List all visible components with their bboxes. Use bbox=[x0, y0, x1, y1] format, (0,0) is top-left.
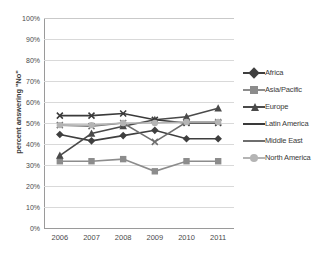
y-axis-tick-label: 0% bbox=[6, 225, 40, 232]
data-point bbox=[183, 158, 189, 164]
y-axis-tick-label: 80% bbox=[6, 57, 40, 64]
data-point bbox=[119, 132, 127, 140]
legend-item-asia-pacific[interactable]: Asia/Pacific bbox=[243, 81, 323, 98]
y-axis-tick-label: 40% bbox=[6, 141, 40, 148]
data-point bbox=[88, 158, 94, 164]
y-axis-tick-label: 70% bbox=[6, 78, 40, 85]
x-axis-tick-label: 2011 bbox=[198, 233, 238, 242]
data-point bbox=[56, 131, 64, 139]
legend-item-label: Middle East bbox=[265, 136, 303, 145]
legend-marker-icon bbox=[243, 118, 265, 130]
legend-item-north-america[interactable]: North America bbox=[243, 149, 323, 166]
y-axis-tick-label: 100% bbox=[6, 15, 40, 22]
y-axis-tick-label: 90% bbox=[6, 36, 40, 43]
series-layer bbox=[44, 18, 234, 228]
plot-area bbox=[44, 18, 234, 228]
legend-marker-icon bbox=[243, 152, 265, 164]
data-point bbox=[183, 119, 189, 125]
y-axis-tick-label: 10% bbox=[6, 204, 40, 211]
y-axis-tick-label: 30% bbox=[6, 162, 40, 169]
x-axis-line bbox=[44, 228, 234, 229]
line-chart: percent answering "No" 0%10%20%30%40%50%… bbox=[0, 0, 323, 258]
data-point bbox=[56, 152, 64, 159]
legend-item-latin-america[interactable]: Latin America bbox=[243, 115, 323, 132]
data-point bbox=[88, 122, 94, 128]
data-point bbox=[215, 119, 221, 125]
data-point bbox=[214, 104, 222, 111]
legend-item-label: Europe bbox=[265, 102, 288, 111]
legend-item-label: Africa bbox=[265, 68, 283, 77]
series-line-asia-pacific bbox=[60, 159, 218, 171]
legend-item-middle-east[interactable]: Middle East bbox=[243, 132, 323, 149]
data-point bbox=[88, 137, 96, 145]
x-axis-tick-labels: 200620072008200920102011 bbox=[44, 233, 234, 247]
legend-item-label: Latin America bbox=[265, 119, 309, 128]
legend-marker-icon bbox=[243, 67, 265, 79]
chart-legend: AfricaAsia/PacificEuropeLatin AmericaMid… bbox=[243, 64, 323, 166]
legend-marker-icon bbox=[243, 84, 265, 96]
y-axis-tick-label: 20% bbox=[6, 183, 40, 190]
data-point bbox=[152, 120, 158, 126]
legend-item-label: Asia/Pacific bbox=[265, 85, 302, 94]
y-axis-tick-label: 50% bbox=[6, 120, 40, 127]
data-point bbox=[120, 120, 126, 126]
data-point bbox=[151, 127, 159, 135]
data-point bbox=[152, 168, 158, 174]
data-point bbox=[215, 158, 221, 164]
legend-item-label: North America bbox=[265, 153, 311, 162]
data-point bbox=[57, 122, 63, 128]
legend-item-europe[interactable]: Europe bbox=[243, 98, 323, 115]
data-point bbox=[120, 156, 126, 162]
legend-marker-icon bbox=[243, 101, 265, 113]
data-point bbox=[183, 135, 191, 143]
data-point bbox=[214, 135, 222, 143]
y-axis-tick-labels: 0%10%20%30%40%50%60%70%80%90%100% bbox=[0, 0, 44, 258]
data-point bbox=[152, 139, 158, 145]
legend-marker-icon bbox=[243, 135, 265, 147]
y-axis-tick-label: 60% bbox=[6, 99, 40, 106]
data-point bbox=[57, 158, 63, 164]
legend-item-africa[interactable]: Africa bbox=[243, 64, 323, 81]
